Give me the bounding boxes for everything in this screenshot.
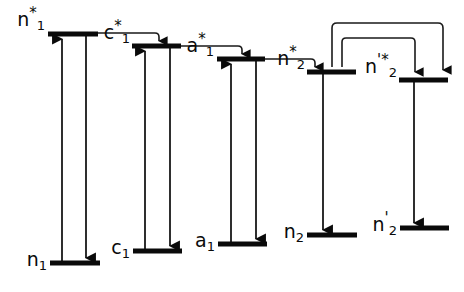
level-label-sup-n2-prime-star: '*	[377, 51, 389, 69]
level-label-sub-a1: 1	[207, 239, 215, 254]
level-label-sub-c1-star: 1	[122, 31, 130, 46]
level-label-n1: n1	[27, 248, 47, 273]
level-label-sub-n2: 2	[296, 230, 304, 245]
level-label-a1: a1	[195, 229, 215, 254]
level-label-base-n2-star: n	[277, 47, 289, 69]
level-label-base-n1: n	[27, 248, 39, 270]
level-label-sub-n1: 1	[39, 258, 47, 273]
level-label-sub-n2-prime-star: 2	[389, 65, 397, 80]
diagram-canvas: n*1c*1a*1n*2n'*2n1c1a1n2n'2	[0, 0, 464, 292]
vertical-transitions-group	[62, 36, 414, 261]
level-label-sub-n2-prime: 2	[389, 223, 397, 238]
level-label-base-a1-star: a	[187, 34, 199, 56]
level-label-base-n2: n	[284, 220, 296, 242]
level-label-sub-c1: 1	[122, 246, 130, 261]
level-label-n1-star: n*1	[17, 4, 45, 33]
level-label-base-n2-prime-star: n	[365, 55, 377, 77]
level-label-sub-n1-star: 1	[37, 18, 45, 33]
level-label-c1: c1	[111, 236, 130, 261]
level-label-sub-n2-star: 2	[297, 57, 305, 72]
level-label-sub-a1-star: 1	[206, 44, 214, 59]
level-label-base-a1: a	[195, 229, 207, 251]
level-label-c1-star: c*1	[104, 17, 130, 46]
energy-level-diagram: n*1c*1a*1n*2n'*2n1c1a1n2n'2	[0, 0, 464, 292]
level-label-n2-prime: n'2	[373, 209, 397, 238]
level-label-a1-star: a*1	[187, 30, 214, 59]
level-label-base-n1-star: n	[17, 8, 29, 30]
level-label-base-c1-star: c	[104, 21, 114, 43]
level-label-base-n2-prime: n	[373, 213, 385, 235]
level-label-base-c1: c	[111, 236, 121, 258]
level-label-n2: n2	[284, 220, 304, 245]
level-label-n2-star: n*2	[277, 43, 305, 72]
level-label-n2-prime-star: n'*2	[365, 51, 397, 80]
